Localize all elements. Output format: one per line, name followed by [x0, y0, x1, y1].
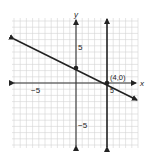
x-tick-neg5-label: −5: [31, 86, 41, 95]
point-label-4-0: (4,0): [110, 73, 126, 82]
x-axis-label: x: [139, 79, 145, 88]
point-4-0: [105, 81, 110, 86]
coordinate-graph: y x 5 −5 −5 5 (4,0): [0, 0, 150, 153]
x-tick-5-label: 5: [110, 87, 114, 94]
y-axis-label: y: [73, 10, 79, 19]
y-intercept-point: [74, 66, 79, 71]
y-tick-5-label: 5: [78, 43, 83, 52]
y-tick-neg5-label: −5: [78, 121, 88, 130]
